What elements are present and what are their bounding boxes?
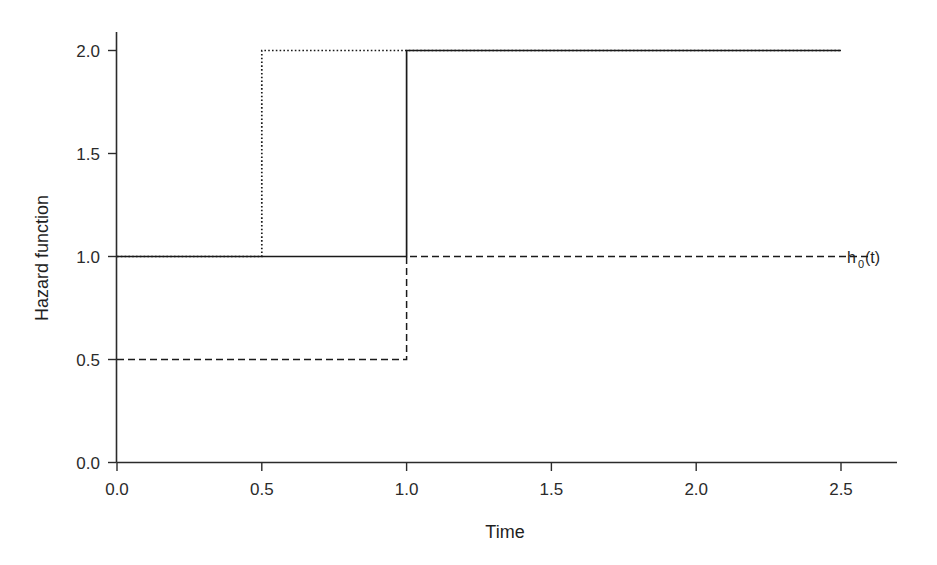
baseline-hazard-label-subscript: 0: [858, 258, 864, 270]
series-solid-step: [117, 51, 841, 257]
series-dotted-step: [117, 51, 841, 257]
hazard-function-chart: 0.0 0.5 1.0 1.5 2.0 0.0 0.5 1.0 1.5 2.0 …: [0, 0, 937, 565]
x-tick-label-4: 2.0: [684, 480, 708, 499]
baseline-hazard-label-tail: (t): [865, 249, 880, 266]
x-tick-marks: [117, 463, 841, 472]
baseline-hazard-label: h 0 (t): [847, 249, 880, 270]
y-tick-label-4: 2.0: [76, 42, 100, 61]
chart-canvas: 0.0 0.5 1.0 1.5 2.0 0.0 0.5 1.0 1.5 2.0 …: [0, 0, 937, 565]
x-axis-title: Time: [485, 522, 524, 542]
x-tick-label-2: 1.0: [395, 480, 419, 499]
y-axis-title: Hazard function: [32, 195, 52, 321]
y-tick-label-0: 0.0: [76, 454, 100, 473]
series-dashed-step: [117, 257, 870, 360]
x-tick-label-5: 2.5: [829, 480, 853, 499]
y-tick-labels: 0.0 0.5 1.0 1.5 2.0: [76, 42, 100, 473]
x-tick-label-0: 0.0: [105, 480, 129, 499]
x-tick-label-3: 1.5: [540, 480, 564, 499]
y-tick-label-3: 1.5: [76, 145, 100, 164]
axes-group: [117, 32, 898, 463]
x-tick-labels: 0.0 0.5 1.0 1.5 2.0 2.5: [105, 480, 853, 499]
baseline-hazard-label-base: h: [847, 249, 856, 266]
y-tick-label-1: 0.5: [76, 351, 100, 370]
y-tick-label-2: 1.0: [76, 248, 100, 267]
series-group: [117, 51, 870, 360]
x-tick-label-1: 0.5: [250, 480, 274, 499]
y-tick-marks: [108, 51, 117, 463]
